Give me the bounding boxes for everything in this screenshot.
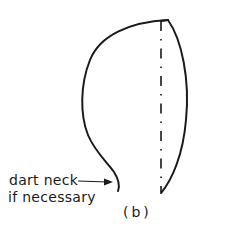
outline-left-curve [82,20,168,191]
pointer-arrow-shaft [78,181,108,182]
annotation-line-2: if necessary [8,189,96,205]
pattern-diagram: dart neck if necessary (b) [0,0,231,233]
arrowhead-icon [104,179,113,186]
outline-right-curve [161,20,187,193]
annotation-line-1: dart neck [9,172,78,188]
figure-caption: (b) [123,204,152,220]
outline-top [160,20,168,21]
